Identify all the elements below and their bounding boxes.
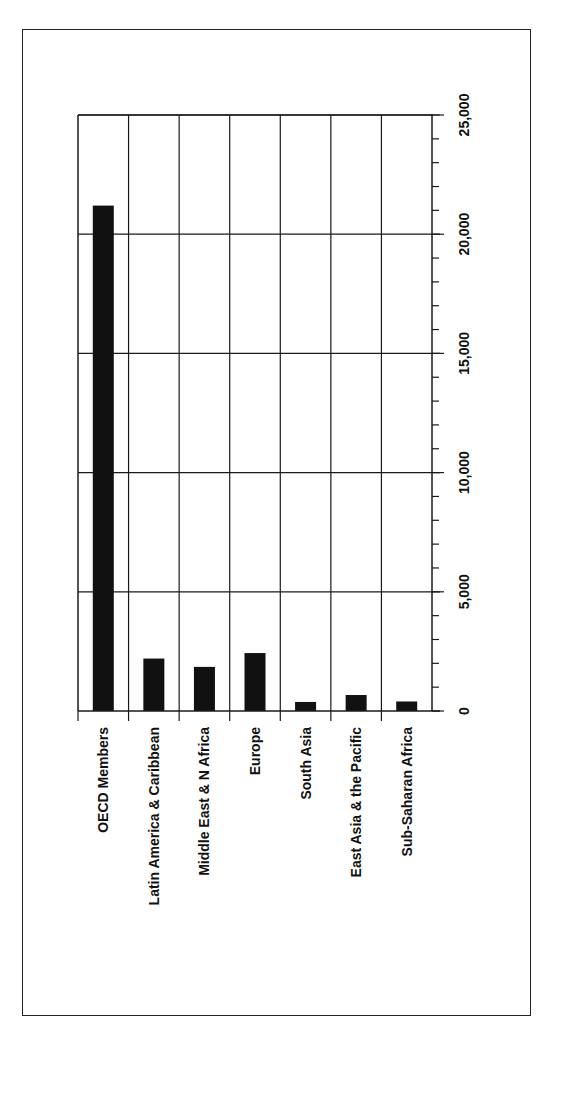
- category-label: Latin America & Caribbean: [146, 727, 162, 905]
- bar: [346, 695, 367, 711]
- bar: [93, 206, 114, 711]
- tick-label: 0: [456, 707, 472, 715]
- tick-label: 10,000: [456, 451, 472, 494]
- bar: [194, 667, 215, 711]
- bar-chart: 05,00010,00015,00020,00025,000 OECD Memb…: [0, 0, 562, 1094]
- bar: [396, 701, 417, 711]
- bar: [143, 659, 164, 711]
- bar: [295, 702, 316, 711]
- tick-label: 25,000: [456, 93, 472, 136]
- category-label: OECD Members: [95, 727, 111, 833]
- category-label: Middle East & N Africa: [196, 727, 212, 876]
- tick-label: 15,000: [456, 332, 472, 375]
- category-label: South Asia: [298, 727, 314, 800]
- tick-label: 5,000: [456, 574, 472, 609]
- value-axis: 05,00010,00015,00020,00025,000: [78, 93, 472, 715]
- tick-label: 20,000: [456, 213, 472, 256]
- category-label: Sub-Saharan Africa: [399, 727, 415, 857]
- category-label: East Asia & the Pacific: [348, 727, 364, 878]
- category-labels: OECD MembersLatin America & CaribbeanMid…: [95, 727, 414, 906]
- gridlines: [78, 115, 440, 721]
- category-label: Europe: [247, 727, 263, 775]
- bars: [93, 206, 417, 711]
- bar: [245, 653, 266, 711]
